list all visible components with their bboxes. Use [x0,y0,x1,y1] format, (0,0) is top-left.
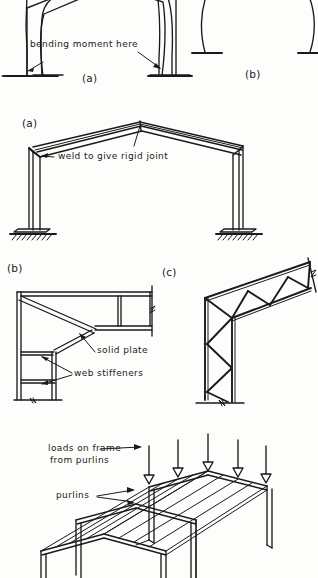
detail-b-haunch [14,286,155,403]
detail-c-lattice [196,258,316,406]
figure-sheet: bending moment here (a) (b) (a) weld to … [0,0,318,578]
top-frame-a-outline [27,0,176,76]
bottom-isometric-purlins [41,434,272,578]
bottom-annotation-leaders [97,444,142,505]
top-frame-a-deflected [2,0,190,76]
sketch-canvas [0,0,318,578]
bending-moment-arrows [28,52,161,72]
top-frame-b-deflected [192,0,318,53]
mid-frame-welded [10,121,262,240]
load-arrows [144,434,271,484]
